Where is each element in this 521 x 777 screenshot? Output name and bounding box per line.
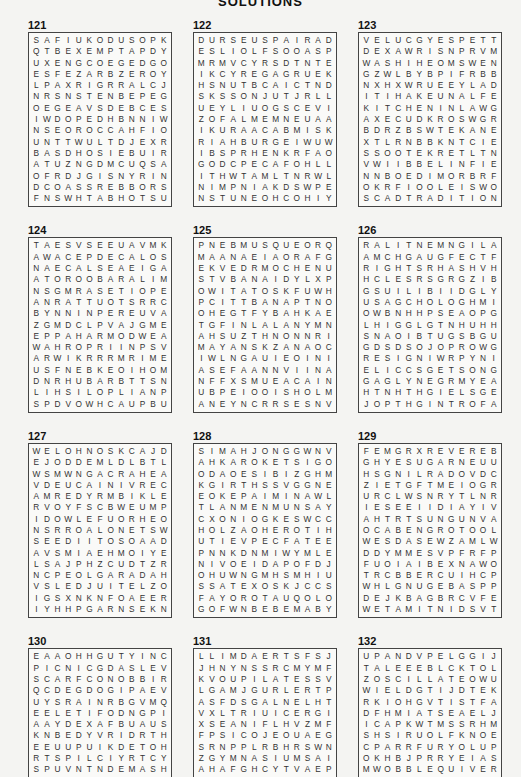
grid-letter: G — [42, 320, 53, 331]
grid-letter: C — [302, 581, 313, 592]
word-search-puzzle: 123VELUCGYESPETTDEXAWRISNPRVMWASHIHEOMSW… — [358, 18, 508, 207]
grid-letter: O — [63, 446, 74, 457]
grid-letter: R — [73, 125, 84, 136]
grid-letter: I — [281, 80, 292, 91]
grid-letter: A — [31, 159, 42, 170]
grid-letter: N — [42, 297, 53, 308]
grid-letter: S — [249, 663, 260, 674]
grid-letter: D — [207, 469, 218, 480]
grid-letter: U — [73, 376, 84, 387]
grid-letter: U — [382, 286, 393, 297]
grid-letter: A — [196, 764, 207, 775]
grid-letter: E — [249, 252, 260, 263]
grid-letter: C — [372, 274, 383, 285]
grid-letter: A — [95, 719, 106, 730]
grid-letter: C — [323, 342, 334, 353]
grid-letter: L — [52, 708, 63, 719]
grid-letter: T — [488, 604, 499, 615]
grid-letter: L — [323, 159, 334, 170]
grid-letter: E — [446, 148, 457, 159]
grid-letter: A — [137, 764, 148, 775]
grid-letter: U — [148, 719, 159, 730]
grid-letter: K — [260, 342, 271, 353]
grid-letter: N — [63, 91, 74, 102]
grid-letter: L — [31, 80, 42, 91]
grid-letter: W — [31, 469, 42, 480]
grid-letter: P — [457, 353, 468, 364]
grid-letter: E — [457, 252, 468, 263]
grid-letter: T — [403, 387, 414, 398]
grid-letter: A — [238, 252, 249, 263]
grid-letter: I — [196, 125, 207, 136]
grid-letter: I — [425, 399, 436, 410]
grid-letter: N — [292, 491, 303, 502]
grid-letter: Z — [196, 114, 207, 125]
grid-letter: P — [42, 331, 53, 342]
grid-letter: D — [31, 376, 42, 387]
grid-letter: U — [95, 297, 106, 308]
grid-letter: T — [127, 376, 138, 387]
grid-letter: N — [73, 159, 84, 170]
grid-letter: R — [361, 240, 372, 251]
grid-letter: Y — [228, 663, 239, 674]
grid-letter: G — [425, 593, 436, 604]
grid-letter: E — [425, 91, 436, 102]
grid-letter: S — [207, 719, 218, 730]
grid-letter: P — [425, 308, 436, 319]
grid-letter: D — [105, 103, 116, 114]
grid-letter: W — [382, 69, 393, 80]
grid-letter: U — [249, 35, 260, 46]
grid-letter: K — [435, 137, 446, 148]
grid-letter: I — [435, 103, 446, 114]
grid-letter: I — [137, 263, 148, 274]
grid-letter: A — [488, 514, 499, 525]
grid-letter: I — [414, 286, 425, 297]
grid-letter: I — [148, 114, 159, 125]
grid-letter: T — [84, 91, 95, 102]
grid-letter: N — [435, 399, 446, 410]
grid-letter: O — [207, 114, 218, 125]
grid-letter: A — [292, 536, 303, 547]
grid-letter: C — [403, 365, 414, 376]
grid-letter: N — [228, 353, 239, 364]
grid-letter: E — [228, 536, 239, 547]
grid-letter: C — [105, 125, 116, 136]
grid-letter: I — [196, 171, 207, 182]
grid-letter: H — [313, 469, 324, 480]
grid-letter: A — [158, 308, 169, 319]
grid-letter: E — [63, 46, 74, 57]
grid-letter: P — [196, 548, 207, 559]
grid-letter: C — [137, 103, 148, 114]
grid-letter: L — [446, 651, 457, 662]
grid-letter: I — [249, 674, 260, 685]
grid-letter: O — [467, 674, 478, 685]
grid-letter: M — [52, 320, 63, 331]
grid-letter: U — [414, 730, 425, 741]
grid-letter: A — [393, 604, 404, 615]
grid-letter: V — [217, 274, 228, 285]
grid-letter: F — [31, 193, 42, 204]
grid-letter: F — [361, 446, 372, 457]
grid-letter: A — [457, 502, 468, 513]
grid-letter: I — [446, 69, 457, 80]
grid-letter: H — [372, 514, 383, 525]
grid-letter: L — [488, 663, 499, 674]
grid-letter: I — [403, 182, 414, 193]
grid-letter: G — [84, 469, 95, 480]
grid-letter: L — [372, 365, 383, 376]
grid-letter: S — [196, 274, 207, 285]
grid-letter: L — [217, 525, 228, 536]
grid-letter: I — [292, 35, 303, 46]
grid-letter: G — [382, 376, 393, 387]
grid-letter: P — [31, 663, 42, 674]
grid-letter: C — [249, 399, 260, 410]
grid-letter: L — [217, 46, 228, 57]
grid-letter: J — [238, 685, 249, 696]
grid-letter: U — [281, 502, 292, 513]
grid-letter: A — [137, 536, 148, 547]
grid-letter: N — [42, 376, 53, 387]
grid-letter: C — [84, 663, 95, 674]
grid-letter: X — [313, 274, 324, 285]
grid-letter: L — [95, 137, 106, 148]
grid-letter: N — [63, 58, 74, 69]
